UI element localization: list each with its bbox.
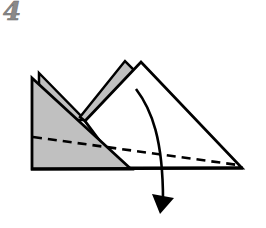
fold-arrowhead-icon xyxy=(152,194,174,214)
baseline-edge xyxy=(31,168,243,169)
origami-diagram xyxy=(0,0,266,228)
